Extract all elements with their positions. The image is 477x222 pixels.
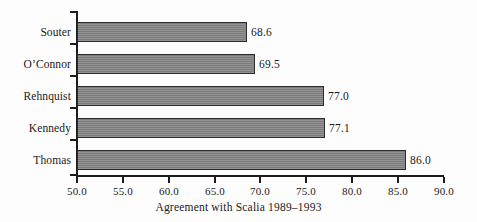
bar-value-label: 77.0	[328, 89, 349, 103]
bar-oconnor	[77, 54, 255, 74]
x-axis-tick	[259, 177, 261, 183]
bar-value-label: 77.1	[329, 121, 350, 135]
x-axis-tick-label: 90.0	[421, 185, 467, 198]
x-axis-tick-label: 60.0	[146, 185, 192, 198]
y-axis-tick-label: Souter	[40, 25, 71, 39]
y-axis-tick-label: Kennedy	[29, 121, 71, 135]
x-axis-tick-label: 50.0	[54, 185, 100, 198]
plot-area: 68.6 69.5 77.0 77.1 86.0	[77, 11, 443, 176]
y-axis-category-labels: Souter O’Connor Rehnquist Kennedy Thomas	[0, 11, 71, 176]
bar-value-label: 68.6	[251, 25, 272, 39]
x-axis-tick	[168, 177, 170, 183]
bar-value-label: 69.5	[259, 57, 280, 71]
x-axis-tick-label: 65.0	[192, 185, 238, 198]
y-axis-tick	[70, 11, 77, 13]
x-axis-tick-label: 55.0	[100, 185, 146, 198]
x-axis-tick	[214, 177, 216, 183]
y-axis-tick-label: O’Connor	[24, 57, 71, 71]
y-axis-tick	[70, 75, 77, 77]
y-axis-tick	[70, 139, 77, 141]
y-axis-tick	[70, 43, 77, 45]
bar-thomas	[77, 150, 406, 170]
y-axis-tick-label: Rehnquist	[23, 89, 71, 103]
x-axis-tick	[351, 177, 353, 183]
y-axis-tick-label: Thomas	[33, 153, 71, 167]
y-axis-tick	[70, 107, 77, 109]
bar-rehnquist	[77, 86, 324, 106]
bar-chart: Souter O’Connor Rehnquist Kennedy Thomas…	[0, 0, 477, 222]
x-axis-tick	[76, 177, 78, 183]
x-axis-tick-label: 80.0	[329, 185, 375, 198]
x-axis-tick	[122, 177, 124, 183]
x-axis-title: Agreement with Scalia 1989–1993	[0, 200, 477, 214]
x-axis-tick	[305, 177, 307, 183]
x-axis-tick-label: 75.0	[283, 185, 329, 198]
y-axis-tick	[70, 174, 77, 176]
x-axis-tick-label: 70.0	[237, 185, 283, 198]
x-axis-tick	[397, 177, 399, 183]
bar-value-label: 86.0	[410, 153, 431, 167]
bar-souter	[77, 22, 247, 42]
bar-kennedy	[77, 118, 325, 138]
x-axis-tick	[443, 177, 445, 183]
x-axis-tick-label: 85.0	[375, 185, 421, 198]
